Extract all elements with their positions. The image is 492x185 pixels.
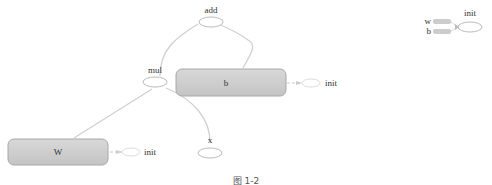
aux-input-w-label: w <box>425 16 432 26</box>
node-mul-label: mul <box>148 65 163 75</box>
node-W-init-label: init <box>144 147 157 157</box>
node-W-init[interactable] <box>122 148 140 156</box>
figure-caption: 图 1-2 <box>0 174 492 185</box>
node-b-init[interactable] <box>302 79 320 87</box>
aux-input-w[interactable] <box>433 19 451 24</box>
node-mul[interactable] <box>143 77 167 87</box>
arrow-icon <box>296 81 302 85</box>
aux-init-node[interactable] <box>458 22 482 32</box>
node-b-label: b <box>224 78 229 88</box>
node-add-label: add <box>205 5 218 15</box>
aux-init-label: init <box>464 8 477 18</box>
edge-mul-add <box>160 24 198 76</box>
node-add[interactable] <box>199 17 223 27</box>
edge-W-mul <box>74 89 152 138</box>
arrow-icon <box>116 150 122 154</box>
aux-input-b[interactable] <box>433 29 451 34</box>
computation-graph: add mul b init W init x init w b <box>0 0 492 185</box>
node-b-init-label: init <box>325 78 338 88</box>
node-x-label: x <box>208 135 213 145</box>
node-W-label: W <box>54 147 63 157</box>
node-x[interactable] <box>198 148 222 158</box>
edge-b-add <box>218 24 253 68</box>
aux-input-b-label: b <box>427 26 432 36</box>
node-b[interactable] <box>176 69 286 96</box>
